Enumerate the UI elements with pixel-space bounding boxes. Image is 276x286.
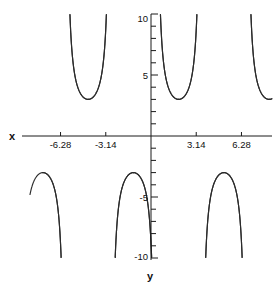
x-axis-title: x — [9, 130, 16, 142]
y-tick-label: -5 — [140, 192, 148, 203]
y-axis-title: y — [147, 270, 154, 282]
y-tick-label: 5 — [143, 70, 148, 81]
chart-container: -6.28-3.143.146.28-10-5510 x y — [0, 0, 276, 286]
x-tick-label: 3.14 — [187, 139, 206, 150]
x-tick-label: -3.14 — [95, 139, 117, 150]
cosecant-plot: -6.28-3.143.146.28-10-5510 x y — [0, 0, 276, 286]
x-tick-label: 6.28 — [232, 139, 251, 150]
y-tick-label: 10 — [137, 13, 148, 24]
x-tick-label: -6.28 — [50, 139, 72, 150]
y-tick-label: -10 — [134, 251, 148, 262]
curve-branch — [269, 99, 272, 100]
